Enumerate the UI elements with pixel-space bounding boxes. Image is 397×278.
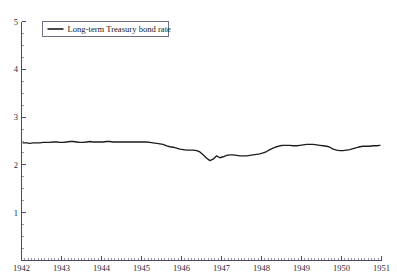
y-tick-label: 2 xyxy=(14,160,18,170)
y-tick-label: 3 xyxy=(14,112,18,122)
legend-label: Long-term Treasury bond rate xyxy=(68,24,172,34)
y-axis-tick-labels: 12345 xyxy=(14,17,19,218)
chart-figure: 1942194319441945194619471948194919501951… xyxy=(0,0,397,278)
x-tick-label: 1950 xyxy=(333,263,350,273)
x-axis-tick-labels: 1942194319441945194619471948194919501951 xyxy=(13,263,390,273)
x-tick-label: 1947 xyxy=(213,263,230,273)
x-tick-label: 1946 xyxy=(173,263,190,273)
chart-legend: Long-term Treasury bond rate xyxy=(43,22,172,37)
x-tick-label: 1942 xyxy=(13,263,30,273)
x-tick-label: 1944 xyxy=(93,263,111,273)
y-tick-label: 1 xyxy=(14,208,18,218)
x-tick-label: 1943 xyxy=(53,263,70,273)
line-chart: 1942194319441945194619471948194919501951… xyxy=(0,0,397,278)
x-tick-label: 1948 xyxy=(253,263,270,273)
series-line-long-term-treasury-bond-rate xyxy=(23,141,380,160)
y-tick-label: 4 xyxy=(14,64,19,74)
x-tick-label: 1951 xyxy=(373,263,390,273)
y-tick-label: 5 xyxy=(14,17,18,27)
y-axis-major-ticks xyxy=(22,22,27,213)
x-tick-label: 1949 xyxy=(293,263,310,273)
x-tick-label: 1945 xyxy=(133,263,150,273)
